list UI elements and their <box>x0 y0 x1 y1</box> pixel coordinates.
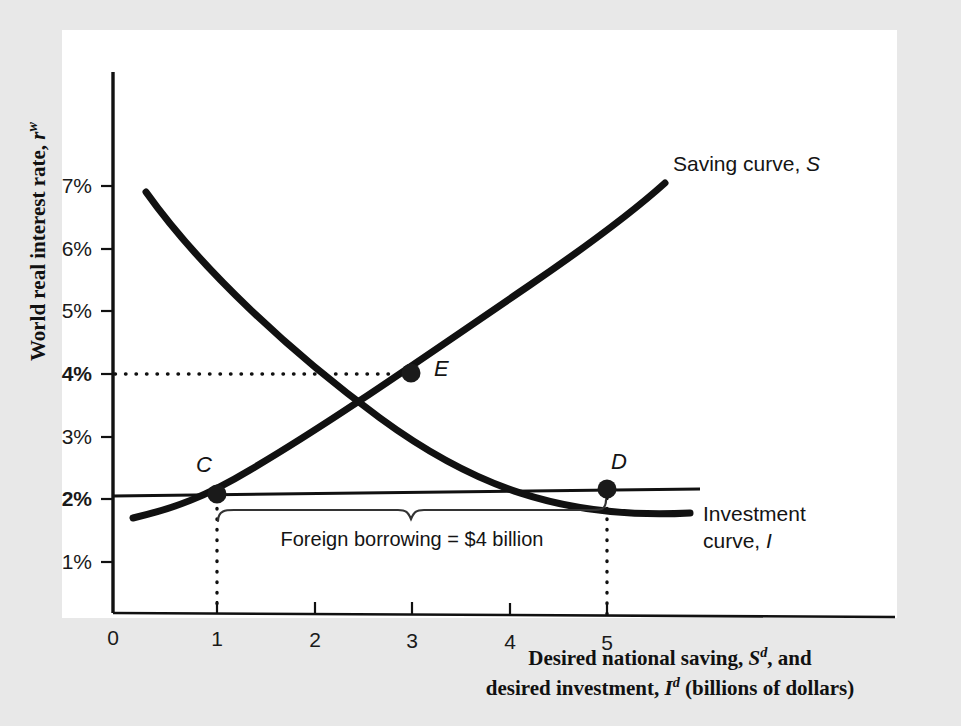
marker-point-c <box>208 485 227 504</box>
saving-curve-label-text: Saving curve, <box>673 152 806 175</box>
saving-curve-label-symbol: S <box>806 152 820 175</box>
investment-curve-label-text: Investment curve, <box>703 502 806 552</box>
x-axis-title-line2: desired investment, Id (billions of doll… <box>486 676 854 700</box>
investment-curve-label: Investment curve, I <box>703 500 806 555</box>
x-axis-title: Desired national saving, Sd, and desired… <box>390 643 950 702</box>
chart-canvas <box>0 0 961 726</box>
x-axis-title-line1-b: , and <box>767 646 811 670</box>
foreign-borrowing-label: Foreign borrowing = $4 billion <box>217 528 607 551</box>
y-tick-marks <box>101 186 113 562</box>
saving-curve-label: Saving curve, S <box>673 150 820 177</box>
figure-page: 7% 6% 5% 4% 3% 2% 1% 0 1 2 3 4 5 World r… <box>0 0 961 726</box>
investment-curve-label-symbol: I <box>766 529 772 552</box>
y-tick-label-7: 7% <box>44 174 92 198</box>
y-axis-title-text: World real interest rate, <box>26 140 50 361</box>
saving-curve <box>133 183 665 518</box>
point-label-c: C <box>196 452 212 478</box>
y-tick-label-3: 3% <box>44 425 92 449</box>
x-axis-line <box>113 613 895 617</box>
y-tick-label-1: 1% <box>44 550 92 574</box>
y-axis-title: World real interest rate, rw <box>24 87 51 397</box>
x-axis-title-line2-b: (billions of dollars) <box>680 676 854 700</box>
y-tick-label-2: 2% <box>44 487 92 511</box>
point-label-e: E <box>434 356 449 382</box>
x-axis-title-line2-a: desired investment, <box>486 676 665 700</box>
y-tick-label-6: 6% <box>44 237 92 261</box>
x-tick-label-0: 0 <box>107 626 119 650</box>
y-axis-title-sup: w <box>24 122 40 132</box>
y-tick-label-4: 4% <box>44 362 92 386</box>
x-axis-title-line1-sym: S <box>748 646 760 670</box>
investment-curve <box>146 192 690 514</box>
marker-point-d <box>598 480 617 499</box>
x-axis-title-line2-sym: I <box>664 676 672 700</box>
point-label-d: D <box>611 449 627 475</box>
x-axis-title-line1-a: Desired national saving, <box>528 646 748 670</box>
x-axis-title-line1: Desired national saving, Sd, and <box>528 646 811 670</box>
x-tick-label-2: 2 <box>309 628 321 652</box>
x-tick-label-1: 1 <box>211 627 223 651</box>
marker-point-e <box>402 364 421 383</box>
y-tick-label-5: 5% <box>44 299 92 323</box>
x-axis-title-line2-sup: d <box>673 674 680 690</box>
y-axis-title-symbol: r <box>26 131 50 139</box>
